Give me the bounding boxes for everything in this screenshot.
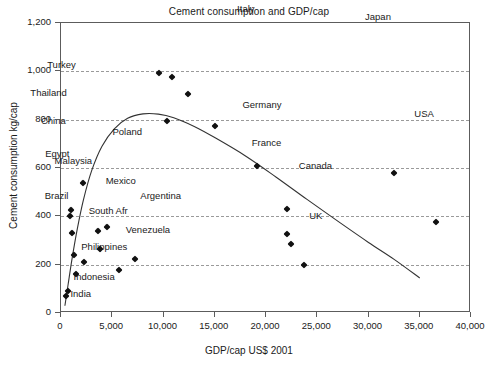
y-tick-label-800: 800	[13, 113, 51, 124]
y-tick-label-600: 600	[13, 161, 51, 172]
data-label-italy: Italy	[237, 3, 254, 14]
data-label-usa: USA	[414, 108, 434, 119]
data-label-philippines: Philippines	[81, 241, 127, 252]
data-label-indonesia: Indonesia	[74, 271, 115, 282]
data-label-uk: UK	[309, 210, 322, 221]
y-tick-mark-400	[55, 215, 60, 216]
data-label-venezuela: Venezuela	[126, 224, 170, 235]
x-tick-mark-0	[60, 312, 61, 317]
data-label-brazil: Brazil	[45, 190, 69, 201]
x-tick-mark-20000	[265, 312, 266, 317]
x-tick-mark-10000	[163, 312, 164, 317]
y-tick-mark-1200	[55, 22, 60, 23]
data-label-canada: Canada	[299, 160, 332, 171]
data-label-turkey: Turkey	[47, 59, 76, 70]
y-tick-mark-1000	[55, 70, 60, 71]
data-label-india: India	[70, 288, 91, 299]
plot-area: IndiaIndonesiaChinaThailandEgyptBrazilPh…	[60, 22, 470, 312]
y-tick-label-1200: 1,200	[13, 16, 51, 27]
data-label-poland: Poland	[112, 126, 142, 137]
x-axis-title: GDP/cap US$ 2001	[0, 345, 498, 356]
x-tick-mark-5000	[111, 312, 112, 317]
x-tick-mark-15000	[214, 312, 215, 317]
y-tick-label-200: 200	[13, 258, 51, 269]
data-label-germany: Germany	[242, 99, 281, 110]
data-label-france: France	[252, 137, 282, 148]
y-tick-label-0: 0	[13, 306, 51, 317]
data-label-thailand: Thailand	[30, 87, 66, 98]
data-label-argentina: Argentina	[140, 190, 181, 201]
x-tick-mark-40000	[470, 312, 471, 317]
y-tick-mark-200	[55, 264, 60, 265]
data-label-mexico: Mexico	[106, 175, 136, 186]
x-tick-mark-30000	[368, 312, 369, 317]
x-tick-mark-25000	[316, 312, 317, 317]
y-tick-label-1000: 1,000	[13, 64, 51, 75]
y-tick-label-400: 400	[13, 209, 51, 220]
y-tick-mark-600	[55, 167, 60, 168]
chart-figure: Cement consumption and GDP/cap Cement co…	[0, 0, 498, 370]
x-tick-mark-35000	[419, 312, 420, 317]
x-tick-label-40000: 40,000	[440, 320, 498, 331]
y-tick-mark-800	[55, 119, 60, 120]
data-label-malaysia: Malaysia	[55, 155, 93, 166]
data-label-south-afr: South Afr	[89, 205, 128, 216]
data-label-japan: Japan	[365, 11, 391, 22]
